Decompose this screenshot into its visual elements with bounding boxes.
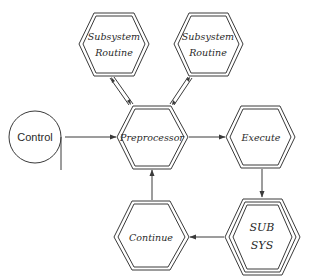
edge-preprocessor-subsystem-left <box>110 77 133 105</box>
execute-node: Execute <box>226 106 295 168</box>
subsystem-routine-left-node: Subsystem Routine <box>79 13 149 76</box>
flowchart-diagram: Control Subsystem Routine Subsystem Rout… <box>0 0 311 276</box>
subsystem-routine-right-node: Subsystem Routine <box>174 13 243 76</box>
subsys-node: SUB SYS <box>225 199 300 275</box>
subsys-line1: SUB <box>250 221 275 234</box>
execute-label: Execute <box>241 132 281 143</box>
continue-label: Continue <box>129 232 173 243</box>
preprocessor-label: Preprocessor <box>119 132 185 143</box>
control-label: Control <box>17 131 52 143</box>
continue-node: Continue <box>114 201 189 270</box>
subsystem-right-line2: Routine <box>188 47 227 58</box>
control-node: Control <box>9 111 61 170</box>
preprocessor-node: Preprocessor <box>117 106 188 169</box>
subsystem-left-line2: Routine <box>94 47 133 58</box>
edge-preprocessor-subsystem-right <box>170 77 192 105</box>
subsys-line2: SYS <box>251 239 274 252</box>
subsystem-right-line1: Subsystem <box>182 31 234 42</box>
subsystem-left-line1: Subsystem <box>88 31 140 42</box>
